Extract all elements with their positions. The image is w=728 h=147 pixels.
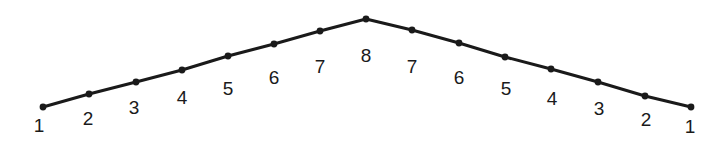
vertex-dot (548, 66, 555, 73)
vertex-dot (409, 27, 416, 34)
vertex-label: 5 (501, 78, 512, 99)
vertex-dot (642, 93, 649, 100)
vertex-label: 7 (407, 56, 418, 77)
vertex-dot (688, 104, 695, 111)
vertex-label: 6 (269, 67, 280, 88)
vertex-label: 2 (641, 109, 652, 130)
vertex-dot (86, 91, 93, 98)
vertex-label: 3 (594, 98, 605, 119)
vertex-label: 7 (315, 56, 326, 77)
vertex-dot (271, 41, 278, 48)
vertex-label: 1 (34, 115, 45, 136)
tent-diagram-svg: 123456787654321 (0, 0, 728, 147)
vertex-label: 8 (361, 45, 372, 66)
vertex-dot (595, 79, 602, 86)
vertex-dot (363, 16, 370, 23)
figure-root: 123456787654321 (0, 0, 728, 147)
vertex-dot (225, 53, 232, 60)
vertex-label: 4 (177, 87, 188, 108)
vertex-label: 5 (223, 78, 234, 99)
vertex-label: 6 (454, 67, 465, 88)
vertex-dot (40, 104, 47, 111)
vertex-label: 4 (547, 88, 558, 109)
vertex-dot (502, 54, 509, 61)
vertex-label: 3 (129, 97, 140, 118)
vertex-dot (133, 79, 140, 86)
vertex-label: 2 (83, 108, 94, 129)
figure-background (0, 0, 728, 147)
vertex-label: 1 (685, 116, 696, 137)
vertex-dot (317, 28, 324, 35)
vertex-dot (456, 40, 463, 47)
vertex-dot (179, 67, 186, 74)
